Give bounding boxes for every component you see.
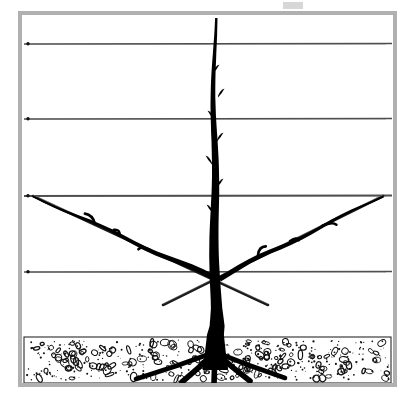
soil-grain (347, 356, 348, 357)
soil-grain (292, 349, 294, 351)
soil-grain (328, 352, 329, 353)
soil-grain (140, 358, 142, 360)
soil-grain (356, 361, 357, 362)
soil-grain (359, 348, 361, 350)
soil-grain (128, 374, 130, 376)
soil-grain (149, 342, 150, 343)
soil-grain (283, 342, 285, 344)
soil-grain (70, 369, 72, 371)
soil-grain (129, 365, 131, 367)
soil-grain (289, 361, 291, 363)
soil-grain (65, 358, 67, 360)
soil-grain (68, 367, 69, 368)
soil-grain (99, 354, 101, 356)
soil-grain (143, 367, 144, 368)
soil-grain (71, 355, 73, 357)
tree-trellis-diagram (0, 0, 415, 399)
soil-grain (341, 371, 343, 373)
soil-grain (271, 369, 272, 370)
soil-grain (139, 354, 141, 356)
page-edge-artifact (283, 2, 303, 9)
soil-grain (64, 352, 66, 354)
soil-grain (54, 375, 55, 376)
soil-grain (271, 364, 273, 366)
soil-grain (224, 376, 225, 377)
soil-grain (247, 370, 249, 372)
soil-grain (305, 371, 306, 372)
soil-grain (303, 341, 305, 343)
soil-grain (380, 349, 381, 350)
soil-grain (347, 378, 349, 380)
soil-grain (99, 378, 100, 379)
wire-4-bottom-left-tie (26, 270, 29, 273)
soil-grain (92, 365, 94, 367)
soil-grain (179, 375, 181, 377)
soil-grain (99, 352, 101, 354)
soil-grain (309, 377, 311, 379)
soil-grain (356, 363, 357, 364)
soil-grain (166, 355, 168, 357)
soil-grain (258, 344, 260, 346)
soil-grain (287, 366, 289, 368)
soil-grain (337, 344, 339, 346)
soil-grain (314, 349, 315, 350)
soil-grain (363, 348, 365, 350)
soil-grain (343, 377, 345, 379)
soil-grain (257, 363, 259, 365)
soil-grain (340, 354, 341, 355)
soil-grain (296, 344, 298, 346)
soil-grain (148, 357, 149, 358)
soil-grain (379, 355, 380, 356)
soil-grain (289, 365, 291, 367)
soil-grain (143, 344, 144, 345)
soil-grain (198, 341, 199, 342)
soil-grain (178, 351, 179, 352)
soil-grain (74, 341, 75, 342)
soil-grain (97, 364, 98, 365)
soil-grain (349, 351, 351, 353)
soil-grain (340, 365, 342, 367)
soil-grain (308, 356, 310, 358)
soil-grain (371, 340, 373, 342)
soil-grain (83, 341, 84, 342)
soil-grain (60, 344, 62, 346)
soil-grain (30, 341, 32, 343)
soil-grain (386, 375, 388, 377)
soil-grain (381, 370, 382, 371)
soil-grain (69, 348, 71, 350)
soil-grain (385, 357, 386, 358)
soil-grain (169, 347, 170, 348)
soil-grain (43, 352, 45, 354)
soil-grain (296, 379, 298, 381)
soil-grain (196, 350, 198, 352)
soil-grain (348, 375, 349, 376)
soil-grain (33, 374, 35, 376)
soil-grain (177, 354, 178, 355)
soil-grain (163, 355, 164, 356)
soil-grain (46, 373, 48, 375)
soil-grain (256, 374, 257, 375)
soil-grain (297, 362, 299, 364)
soil-grain (295, 376, 297, 378)
soil-grain (141, 349, 143, 351)
soil-grain (279, 367, 281, 369)
soil-grain (68, 360, 69, 361)
soil-grain (63, 364, 64, 365)
soil-grain (47, 345, 48, 346)
soil-grain (387, 366, 389, 368)
soil-grain (104, 346, 106, 348)
soil-grain (347, 359, 348, 360)
soil-grain (86, 373, 88, 375)
soil-grain (321, 373, 323, 375)
soil-grain (72, 340, 74, 342)
soil-grain (317, 356, 318, 357)
soil-grain (312, 358, 313, 359)
soil-grain (249, 343, 250, 344)
soil-grain (321, 372, 322, 373)
soil-grain (90, 365, 91, 366)
soil-grain (28, 368, 30, 370)
soil-grain (41, 375, 42, 376)
soil-grain (159, 361, 160, 362)
soil-grain (380, 357, 381, 358)
soil-grain (86, 346, 88, 348)
